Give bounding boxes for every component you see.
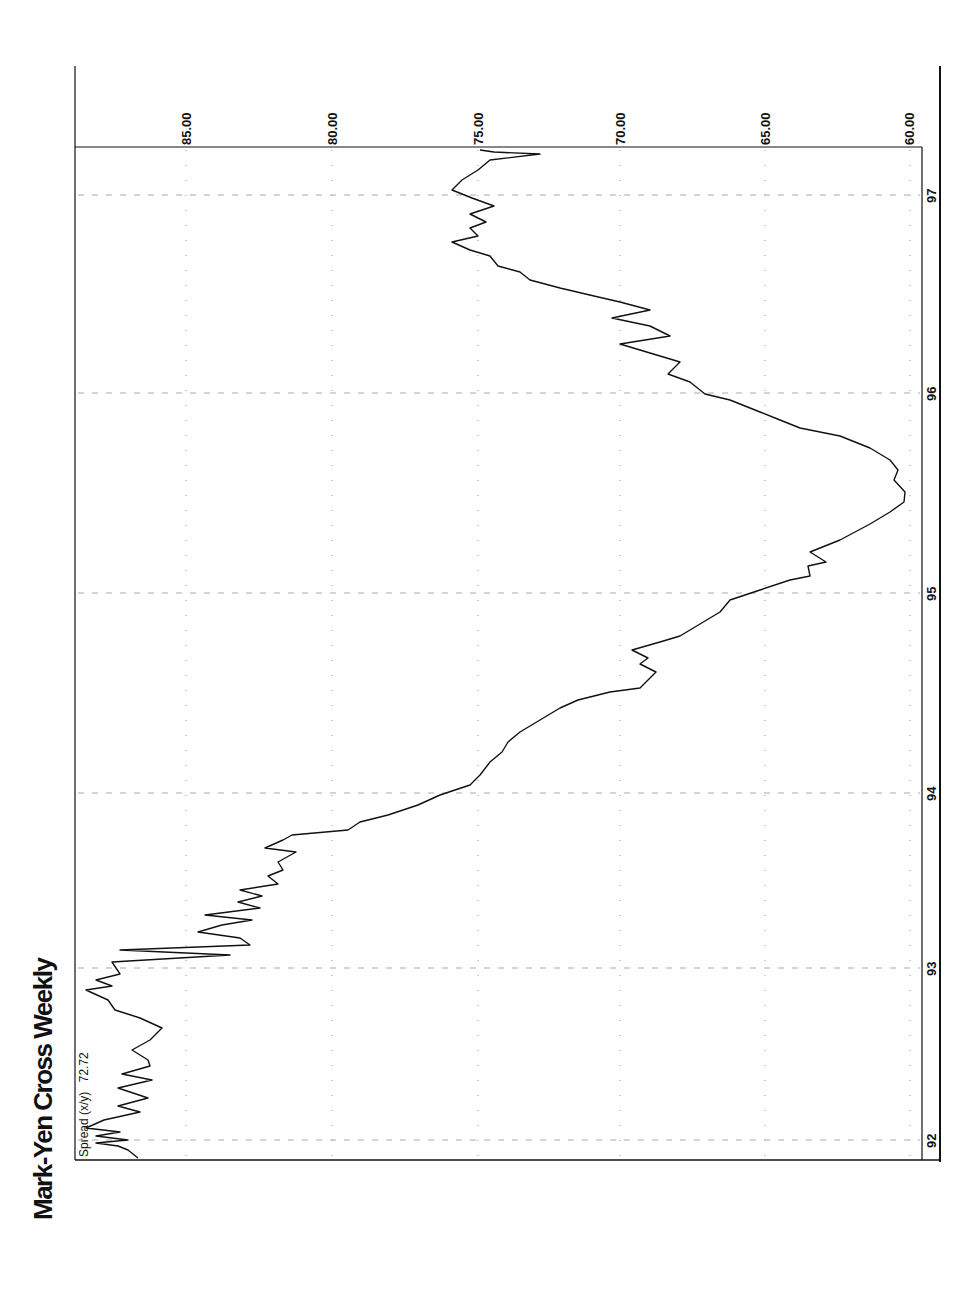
value-tick-75: 75.00 bbox=[471, 112, 486, 145]
value-tick-70: 70.00 bbox=[613, 112, 628, 145]
time-tick-labels: 92 93 94 95 96 97 bbox=[924, 189, 939, 1148]
time-tick-94: 94 bbox=[924, 786, 939, 801]
time-gridlines bbox=[78, 195, 920, 1140]
value-tick-85: 85.00 bbox=[179, 112, 194, 145]
value-gridlines bbox=[186, 150, 910, 1158]
value-tick-labels: 85.00 80.00 75.00 70.00 65.00 60.00 bbox=[179, 112, 917, 145]
chart-canvas: 85.00 80.00 75.00 70.00 65.00 60.00 92 9… bbox=[0, 0, 973, 1306]
value-tick-80: 80.00 bbox=[325, 112, 340, 145]
time-tick-96: 96 bbox=[924, 387, 939, 401]
spread-line bbox=[86, 150, 905, 1158]
value-tick-60: 60.00 bbox=[902, 112, 917, 145]
time-tick-93: 93 bbox=[924, 962, 939, 976]
value-tick-65: 65.00 bbox=[758, 112, 773, 145]
time-tick-92: 92 bbox=[924, 1134, 939, 1148]
time-tick-97: 97 bbox=[924, 189, 939, 203]
time-tick-95: 95 bbox=[924, 587, 939, 601]
